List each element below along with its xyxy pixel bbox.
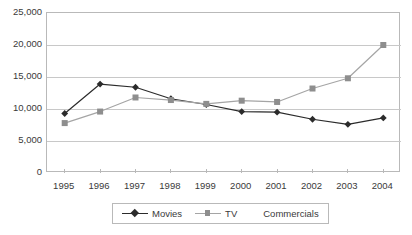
legend-diamond-icon [130,208,138,216]
legend-item-tv[interactable]: TV [195,204,237,223]
data-point [133,94,139,100]
legend-item-commercials[interactable]: Commercials [263,204,318,223]
x-axis: 1995199619971998199920002001200220032004 [46,180,400,196]
data-point [345,121,352,128]
legend-square-icon [205,210,211,216]
data-point [239,98,245,104]
chart-legend: MoviesTVCommercials [112,203,329,224]
x-tick-label: 2004 [372,180,393,192]
y-axis: 05,00010,00015,00020,00025,000 [0,0,42,184]
legend-item-movies[interactable]: Movies [122,204,182,223]
data-point [310,86,316,92]
series-line-tv [65,45,384,123]
y-tick-label: 5,000 [0,135,42,145]
data-point [274,109,281,116]
y-tick-label: 20,000 [0,39,42,49]
legend-marker-icon [195,208,221,219]
data-point [168,97,174,103]
data-point [203,101,209,107]
data-point [97,109,103,115]
series-line-movies [65,84,384,124]
legend-label: Movies [152,208,182,219]
data-point [345,75,351,81]
y-tick-label: 10,000 [0,103,42,113]
x-tick-label: 1996 [89,180,110,192]
data-point [309,116,316,123]
y-tick-label: 25,000 [0,7,42,17]
x-tick-label: 2003 [336,180,357,192]
data-point [380,115,387,122]
data-point [380,42,386,48]
x-tick-label: 2002 [301,180,322,192]
legend-label: Commercials [263,208,318,219]
legend-label: TV [225,208,237,219]
data-point [132,84,139,91]
x-tick-label: 1997 [124,180,145,192]
line-chart: 05,00010,00015,00020,00025,000 199519961… [0,0,412,235]
x-tick-label: 2000 [230,180,251,192]
x-tick-label: 2001 [266,180,287,192]
y-tick-label: 0 [0,167,42,177]
x-tick-label: 1998 [159,180,180,192]
data-point [274,99,280,105]
plot-svg [47,13,401,173]
data-point [62,120,68,126]
x-tick-label: 1999 [195,180,216,192]
y-tick-label: 15,000 [0,71,42,81]
x-tick-label: 1995 [53,180,74,192]
legend-marker-icon [122,208,148,219]
plot-area [46,12,400,172]
